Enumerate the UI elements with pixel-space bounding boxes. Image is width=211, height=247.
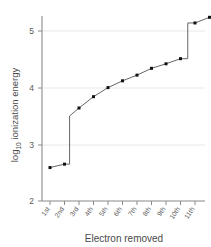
data-point bbox=[63, 163, 66, 166]
y-tick-label-4: 4 bbox=[29, 83, 34, 93]
ionization-energy-chart: 5 4 3 2 log10 ionization energy bbox=[0, 0, 211, 247]
y-tick-label-3: 3 bbox=[29, 140, 34, 150]
y-tick-label-2: 2 bbox=[29, 196, 34, 206]
y-tick-label-5: 5 bbox=[29, 26, 34, 36]
chart-svg: 5 4 3 2 log10 ionization energy bbox=[0, 0, 211, 247]
data-point bbox=[136, 74, 139, 77]
data-point bbox=[92, 95, 95, 98]
y-axis-title-main: ionization energy bbox=[9, 68, 20, 140]
data-point bbox=[194, 21, 197, 24]
data-point bbox=[78, 107, 81, 110]
data-point bbox=[179, 57, 182, 60]
data-point bbox=[165, 62, 168, 65]
data-point bbox=[49, 166, 52, 169]
data-point bbox=[121, 79, 124, 82]
y-axis-title-prefix: log bbox=[9, 150, 20, 163]
x-axis-title: Electron removed bbox=[85, 233, 163, 244]
data-point bbox=[150, 67, 153, 70]
data-point bbox=[107, 86, 110, 89]
data-point bbox=[208, 16, 211, 19]
